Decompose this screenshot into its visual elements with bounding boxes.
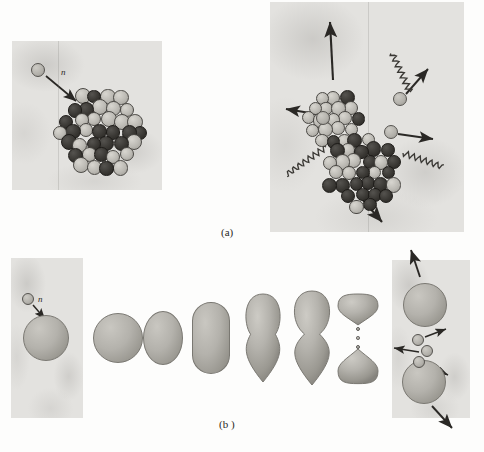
neutron-upper-right — [393, 92, 407, 106]
lower-drop-fragment — [402, 360, 446, 404]
neutron-right — [384, 125, 398, 139]
nucleon — [349, 200, 364, 215]
neutron-left — [316, 111, 330, 125]
drop-neutron-middle — [421, 345, 433, 357]
drop-neutron-top — [412, 334, 424, 346]
nucleon — [79, 123, 93, 137]
nucleon — [331, 121, 345, 135]
after-fission-box — [270, 2, 464, 232]
nucleon — [329, 165, 343, 179]
drop-fragments-box — [392, 260, 470, 418]
nucleon — [113, 160, 129, 176]
fission-figure: n n (a) (b ) — [0, 0, 484, 452]
before-fission-box — [12, 41, 162, 190]
target-nucleus — [12, 41, 162, 190]
incident-neutron — [31, 63, 45, 77]
nucleon — [322, 178, 337, 193]
caption-a: (a) — [221, 227, 233, 238]
drop-neutron-bottom — [413, 356, 425, 368]
drop-before-fission-box — [11, 258, 83, 418]
incident-neutron — [22, 293, 34, 305]
nucleon — [363, 198, 376, 211]
lower-fragment — [270, 2, 464, 232]
nucleon — [379, 189, 393, 203]
drop-nucleus — [23, 315, 69, 361]
nucleon — [99, 161, 113, 175]
upper-drop-fragment — [403, 283, 447, 327]
caption-b: (b ) — [219, 419, 235, 430]
